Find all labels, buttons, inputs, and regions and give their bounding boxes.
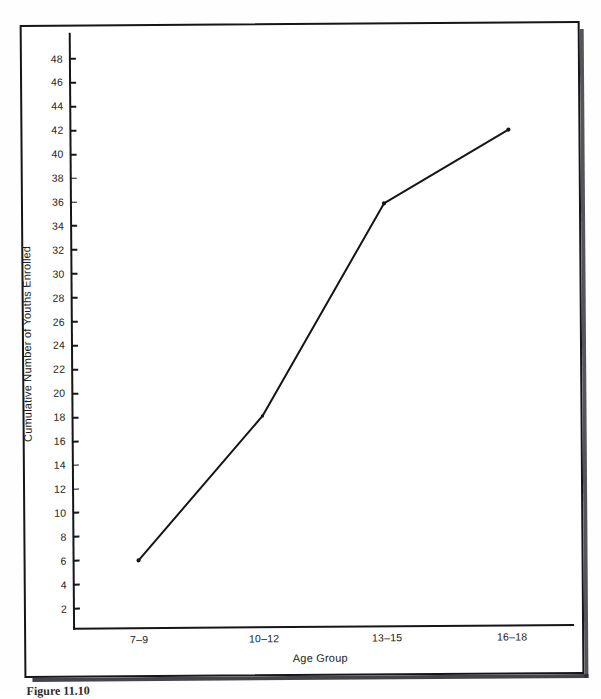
skew-wrapper: 2468101214161820222426283032343638404244…	[0, 0, 601, 692]
figure-caption: Figure 11.10	[26, 684, 89, 699]
figure-frame	[20, 21, 585, 678]
